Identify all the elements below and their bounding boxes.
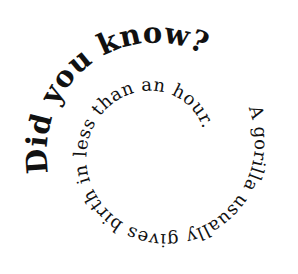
spiral-body: A gorilla usually gives birth in less th… — [69, 74, 272, 252]
spiral-graphic: Did you know? A gorilla usually gives bi… — [0, 0, 298, 274]
fact-text: A gorilla usually gives birth in less th… — [69, 74, 272, 252]
